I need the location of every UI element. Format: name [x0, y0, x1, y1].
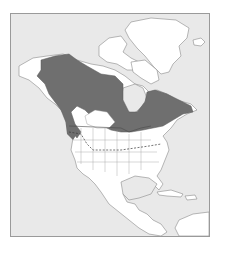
- map-svg: [11, 14, 209, 236]
- hispaniola: [185, 195, 197, 200]
- range-map: [10, 13, 210, 237]
